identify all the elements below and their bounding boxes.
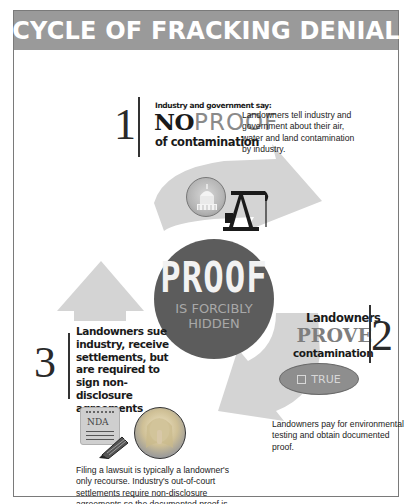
center-proof-label: PROOF xyxy=(160,256,267,299)
center-subtitle-line1: IS FORCIBLY xyxy=(175,302,253,317)
true-badge-label: TRUE xyxy=(311,373,340,386)
silenced-woman-portrait xyxy=(134,407,186,459)
step-number-2: 2 xyxy=(371,314,393,358)
true-badge: TRUE xyxy=(279,363,359,395)
step1-description: Landowners tell industry and government … xyxy=(242,110,362,155)
pencil-icon xyxy=(98,431,132,459)
step3-description: Filing a lawsuit is typically a landowne… xyxy=(76,465,236,504)
center-subtitle-line2: HIDDEN xyxy=(188,317,240,332)
oil-pump-jack-icon xyxy=(221,189,271,233)
proof-hidden-circle: PROOF IS FORCIBLY HIDDEN xyxy=(154,239,274,359)
nda-label: NDA xyxy=(87,417,109,427)
step-number-3: 3 xyxy=(34,341,56,385)
step3-heading: Landowners sue industry, receive settlem… xyxy=(76,325,171,415)
step-number-1: 1 xyxy=(114,103,136,147)
step1-big-no: NO xyxy=(154,108,194,135)
arrow-step3-to-step1 xyxy=(57,261,144,321)
step2-big-prove: PROVE xyxy=(274,326,372,345)
divider-step3 xyxy=(68,333,70,399)
infographic-frame: CYCLE OF FRACKING DENIAL 1 Industry and … xyxy=(13,10,399,497)
divider-step1 xyxy=(138,97,140,157)
checkbox-icon xyxy=(297,375,306,384)
capitol-dome-icon xyxy=(186,177,226,217)
step2-subheading: contamination xyxy=(293,347,373,359)
step2-description: Landowners pay for environmental testing… xyxy=(272,419,412,453)
